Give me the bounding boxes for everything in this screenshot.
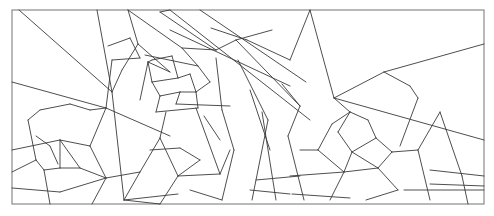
- artwork-frame: [12, 10, 484, 204]
- line-art-canvas: [0, 0, 494, 216]
